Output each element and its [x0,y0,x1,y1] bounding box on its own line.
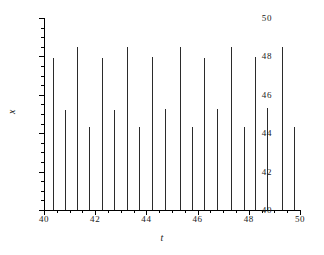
spike-line [282,47,283,210]
x-axis-title: t [0,232,324,243]
y-axis-line [44,18,45,211]
y-tick-label: 48 [262,51,272,61]
spike-line [77,47,78,210]
spike-line [217,109,218,210]
x-tick-label: 50 [295,214,305,224]
spike-line [89,127,90,210]
spike-line [139,127,140,210]
x-tick-label: 46 [192,214,202,224]
y-tick-label: 50 [262,13,272,23]
y-tick-label: 44 [262,128,272,138]
spike-line [267,108,268,210]
spike-line [102,58,103,210]
spike-line [53,58,54,210]
x-tick-label: 40 [39,214,49,224]
spike-line [127,47,128,210]
chart-figure: 404244464850 404244464850 x t [0,0,324,255]
spike-line [65,110,66,210]
y-axis-title: x [6,110,17,114]
plot-area [44,18,300,210]
spike-line [204,58,205,210]
y-tick-label: 46 [262,90,272,100]
spike-line [165,109,166,210]
spike-line [192,127,193,210]
x-tick-label: 42 [90,214,100,224]
spike-line [114,110,115,210]
spike-line [152,57,153,210]
y-tick-label: 42 [262,167,272,177]
spike-line [255,57,256,210]
y-tick-label: 40 [262,205,272,215]
x-tick-label: 44 [141,214,151,224]
spike-line [231,47,232,210]
spike-line [244,127,245,210]
x-tick-label: 48 [244,214,254,224]
spike-line [180,47,181,210]
spike-line [294,127,295,210]
